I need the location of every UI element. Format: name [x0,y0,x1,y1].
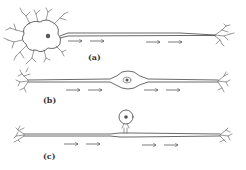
axon-terminal-b [218,72,230,92]
cell-body-a [22,20,60,52]
signal-direction-arrows-a [68,41,182,42]
panel-a-multipolar-neuron: (a) [4,8,234,64]
panel-label-b: (b) [43,95,56,105]
dendrites-a [4,8,68,64]
panel-c-unipolar-neuron: (c) [14,110,232,161]
axon-terminal-a [215,24,234,46]
nucleus-b [126,79,129,82]
nucleus-a [46,34,50,38]
axon-c [24,133,220,134]
panel-label-c: (c) [43,151,56,161]
nucleus-c [124,115,128,119]
panel-label-a: (a) [88,52,101,62]
neuron-types-diagram: (a) (b) [0,0,246,170]
panel-b-bipolar-neuron: (b) [16,68,230,105]
signal-direction-arrows-c [64,144,178,145]
dendrites-c [14,126,24,142]
axon-terminal-c [220,128,232,142]
stem-c [122,124,129,133]
